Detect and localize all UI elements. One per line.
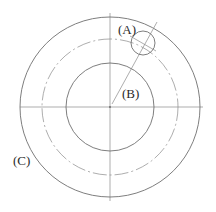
label-c: (C) [13,153,30,168]
label-a: (A) [118,22,136,37]
label-b: (B) [122,86,139,101]
small-circle-crossline [130,36,156,51]
center-point [109,106,111,108]
circle-diagram: (A) (B) (C) [0,0,216,212]
